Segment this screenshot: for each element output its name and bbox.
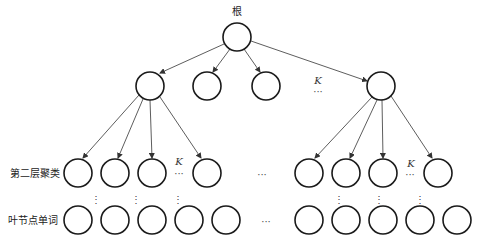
root-label: 根: [232, 5, 242, 17]
ellipsis-level1: ···: [313, 86, 323, 97]
leaf-label: 叶节点单词: [8, 215, 58, 226]
leaf-node: [295, 206, 323, 234]
level1-nodes: [136, 72, 395, 100]
hierarchical-clustering-tree: 根 K ··· 第二层聚类: [0, 0, 481, 250]
level2-node: [295, 159, 323, 187]
vertical-ellipsis: ⋮: [173, 194, 183, 205]
vertical-ellipsis: ⋮: [131, 194, 141, 205]
vertical-ellipsis: ⋮: [334, 194, 344, 205]
k-symbol-right: K: [406, 158, 415, 169]
k-symbol-left: K: [174, 156, 183, 167]
level1-node: [193, 72, 221, 100]
level2-node: [101, 159, 129, 187]
leaf-node: [332, 206, 360, 234]
level1-node: [136, 72, 164, 100]
leaf-node: [138, 206, 166, 234]
ellipsis-left: ···: [174, 168, 184, 179]
level2-node: [424, 159, 452, 187]
leaf-node: [406, 206, 434, 234]
root-node: [223, 23, 251, 51]
level2-node: [369, 159, 397, 187]
vertical-ellipsis: ⋮: [91, 194, 101, 205]
level2-node: [193, 159, 221, 187]
leaf-node: [175, 206, 203, 234]
level2-node: [138, 159, 166, 187]
level2-node: [64, 159, 92, 187]
level2-node: [332, 159, 360, 187]
level2-label: 第二层聚类: [10, 167, 60, 179]
leaf-node: [212, 206, 240, 234]
vertical-ellipses: ⋮ ⋮ ⋮ ⋮ ⋮ ⋮: [91, 194, 425, 205]
edges-right-level2: [315, 96, 432, 158]
ellipsis-right: ···: [405, 169, 415, 180]
leaf-node: [101, 206, 129, 234]
leaf-node: [64, 206, 92, 234]
leaf-node: [443, 206, 471, 234]
ellipsis-middle-level2: ···: [257, 169, 267, 180]
leaf-node: [369, 206, 397, 234]
k-symbol-level1: K: [313, 75, 322, 86]
level1-node: [252, 72, 280, 100]
level1-node: [367, 72, 395, 100]
vertical-ellipsis: ⋮: [415, 194, 425, 205]
edges-left-level2: [83, 95, 201, 158]
ellipsis-middle-leaves: ···: [261, 216, 271, 227]
vertical-ellipsis: ⋮: [374, 194, 384, 205]
